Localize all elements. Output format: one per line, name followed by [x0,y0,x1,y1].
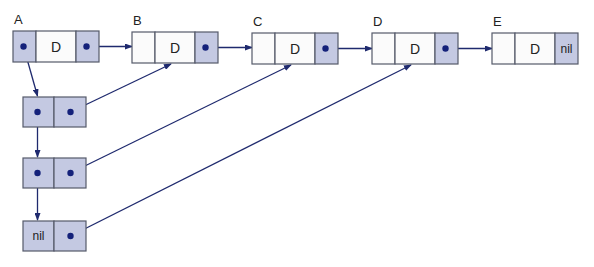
node-label: E [493,14,502,29]
cross-link-arrow [71,65,412,236]
pointer-dot-icon [20,43,26,49]
pointer-dot-icon [34,170,40,176]
node-label: B [133,13,142,28]
linked-list-diagram: ADBDCDDDEDnilnil [0,0,594,267]
list-node-e: EDnil [492,14,578,64]
node-down-pointer-cell [492,33,515,64]
node-data-value: D [51,39,61,55]
cross-link-arrow [71,65,292,173]
node-down-pointer-cell [372,33,395,64]
pointer-dot-icon [83,43,89,49]
sublist-node: nil [23,221,86,251]
node-data-value: D [530,41,540,57]
nil-value: nil [560,42,572,56]
node-down-pointer-cell [132,32,155,63]
nil-value: nil [32,229,44,243]
pointer-dot-icon [34,109,40,115]
sublist-node [23,97,86,127]
pointer-dot-icon [202,44,208,50]
list-node-b: BD [132,13,218,63]
pointer-dot-icon [442,45,448,51]
list-node-a: AD [13,12,99,62]
sublist-node [23,158,86,188]
list-node-c: CD [252,14,338,64]
list-node-d: DD [372,14,458,64]
node-data-value: D [170,40,180,56]
node-label: C [253,14,262,29]
node-label: D [373,14,382,29]
node-label: A [14,12,23,27]
node-data-value: D [410,41,420,57]
pointer-dot-icon [67,109,73,115]
pointer-dot-icon [67,170,73,176]
pointer-dot-icon [322,45,328,51]
node-down-pointer-cell [252,33,275,64]
pointer-dot-icon [67,233,73,239]
node-data-value: D [290,41,300,57]
